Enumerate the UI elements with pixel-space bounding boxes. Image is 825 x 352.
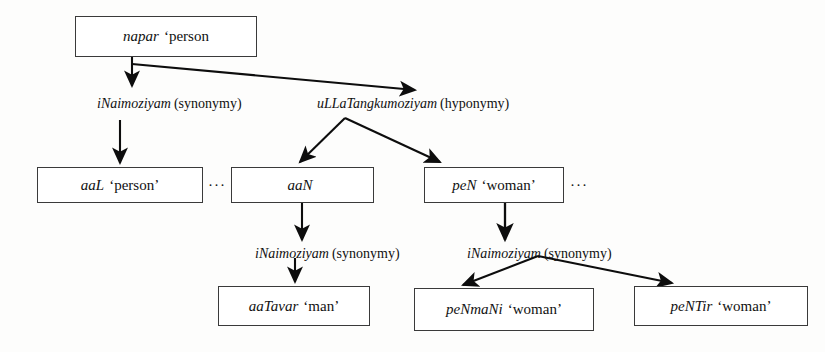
node-peNmaNi-term: peNmaNi bbox=[446, 302, 503, 317]
node-peNTir: peNTir ‘woman’ bbox=[634, 286, 808, 326]
edge-label-synonymy-top-relation: iNaimoziyam bbox=[97, 96, 171, 111]
node-aaTavar-gloss: ‘man’ bbox=[303, 299, 339, 314]
node-aaN: aaN bbox=[231, 167, 374, 203]
node-peN-term: peN bbox=[452, 178, 476, 193]
edge-napar-to-hyponymy bbox=[132, 64, 415, 90]
ellipsis-after-aaL: ··· bbox=[208, 178, 226, 193]
edge-label-synonymy-top-kind: (synonymy) bbox=[174, 96, 242, 111]
edge-label-synonymy-aaN: iNaimoziyam(synonymy) bbox=[255, 247, 400, 261]
node-aaL: aaL ‘person’ bbox=[37, 167, 203, 203]
edge-label-synonymy-peN-kind: (synonymy) bbox=[544, 246, 612, 261]
node-napar: napar ‘person bbox=[75, 16, 257, 57]
node-peNTir-term: peNTir bbox=[671, 299, 713, 314]
node-peN: peN ‘woman’ bbox=[424, 167, 564, 203]
node-peN-gloss: ‘woman’ bbox=[482, 178, 536, 193]
edge-hyponymy-to-peN bbox=[345, 118, 440, 162]
edge-hyponymy-to-aaN bbox=[300, 118, 345, 162]
edge-label-synonymy-peN: iNaimoziyam(synonymy) bbox=[467, 247, 612, 261]
node-napar-term: napar bbox=[123, 29, 159, 44]
edge-label-synonymy-peN-relation: iNaimoziyam bbox=[467, 246, 541, 261]
node-peNmaNi-gloss: ‘woman’ bbox=[508, 302, 562, 317]
lexical-relation-diagram: napar ‘person aaL ‘person’ aaN peN ‘woma… bbox=[0, 0, 825, 352]
node-aaTavar: aaTavar ‘man’ bbox=[218, 286, 370, 326]
node-aaL-gloss: ‘person’ bbox=[109, 178, 159, 193]
node-napar-gloss: ‘person bbox=[164, 29, 209, 44]
edge-label-synonymy-aaN-relation: iNaimoziyam bbox=[255, 246, 329, 261]
node-peNmaNi: peNmaNi ‘woman’ bbox=[414, 288, 594, 331]
node-aaL-term: aaL bbox=[81, 178, 104, 193]
edge-label-hyponymy-top: uLLaTangkumoziyam(hyponymy) bbox=[317, 97, 509, 111]
edge-label-hyponymy-top-relation: uLLaTangkumoziyam bbox=[317, 96, 437, 111]
edge-label-synonymy-aaN-kind: (synonymy) bbox=[332, 246, 400, 261]
node-aaN-term: aaN bbox=[287, 178, 312, 193]
edge-label-hyponymy-top-kind: (hyponymy) bbox=[440, 96, 509, 111]
ellipsis-after-peN: ··· bbox=[570, 178, 588, 193]
edge-label-synonymy-top: iNaimoziyam(synonymy) bbox=[97, 97, 242, 111]
node-aaTavar-term: aaTavar bbox=[249, 299, 298, 314]
node-peNTir-gloss: ‘woman’ bbox=[717, 299, 771, 314]
